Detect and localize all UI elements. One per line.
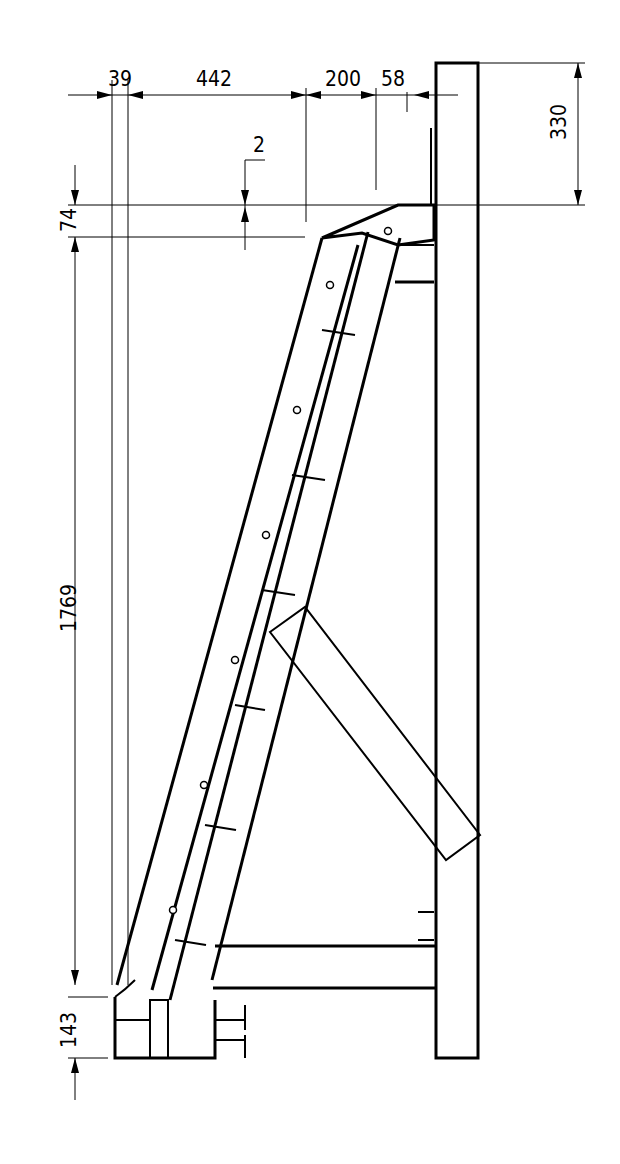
stringers [117,232,400,1000]
top-landing [322,205,434,282]
stair-drawing: 39 442 200 58 2 330 74 1769 143 [0,0,620,1164]
dim-58: 58 [381,67,405,91]
dim-1769: 1769 [57,584,81,632]
diagonal-brace [270,607,480,860]
dim-2: 2 [253,133,265,157]
steps [170,282,356,946]
bottom-frame [115,912,436,1058]
dim-330: 330 [547,104,571,140]
wall-column [431,63,478,1058]
dimension-lines [68,63,585,1100]
dimension-labels: 39 442 200 58 2 330 74 1769 143 [57,67,571,1048]
dim-442: 442 [196,67,232,91]
dim-74: 74 [57,208,81,232]
dim-143: 143 [57,1012,81,1048]
dim-200: 200 [325,67,361,91]
